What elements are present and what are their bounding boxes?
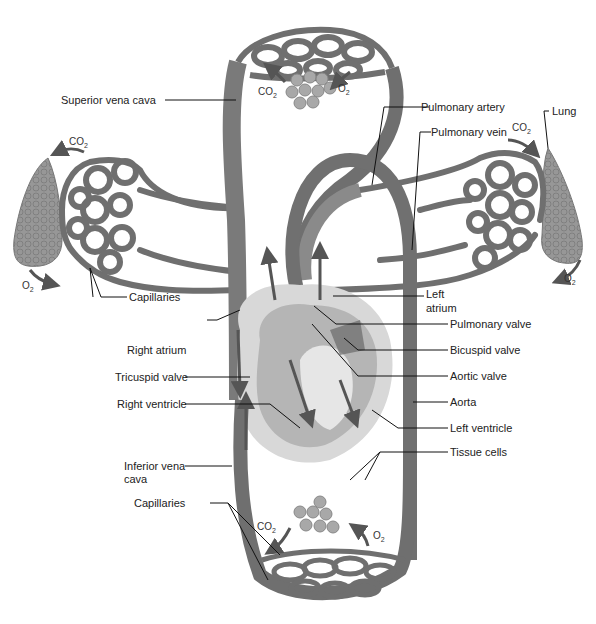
label-left-ventricle: Left ventricle	[450, 422, 512, 435]
label-pulmonary-valve: Pulmonary valve	[450, 318, 531, 331]
right-lung	[542, 148, 583, 263]
label-right-ventricle: Right ventricle	[117, 398, 187, 411]
pulmonary-artery-vessel	[304, 190, 360, 280]
co2-left-lung: CO2	[69, 136, 88, 149]
o2-left-lung: O2	[22, 280, 34, 293]
label-aortic-valve: Aortic valve	[450, 370, 507, 383]
label-pulmonary-artery: Pulmonary artery	[421, 101, 505, 114]
label-pulmonary-vein: Pulmonary vein	[431, 126, 507, 139]
label-left-atrium-2: atrium	[426, 302, 457, 315]
co2-right-lung: CO2	[512, 122, 531, 135]
label-aorta: Aorta	[450, 396, 476, 409]
label-inferior-vena-cava-1: Inferior vena	[124, 460, 185, 473]
o2-upper: O2	[338, 83, 350, 96]
lower-tissue-cells	[294, 496, 339, 533]
label-bicuspid-valve: Bicuspid valve	[450, 344, 520, 357]
label-tissue-cells: Tissue cells	[450, 446, 507, 459]
o2-right-lung: O2	[564, 273, 576, 286]
left-lung	[14, 158, 62, 266]
label-capillaries-upper: Capillaries	[129, 291, 180, 304]
co2-upper: CO2	[258, 86, 277, 99]
co2-lower: CO2	[257, 521, 276, 534]
label-tricuspid-valve: Tricuspid valve	[115, 371, 188, 384]
label-lung: Lung	[552, 105, 576, 118]
o2-lower: O2	[373, 530, 385, 543]
heart	[237, 284, 392, 462]
left-pulmonary-capillaries	[62, 160, 240, 291]
label-inferior-vena-cava-2: cava	[124, 473, 147, 486]
label-superior-vena-cava: Superior vena cava	[61, 94, 156, 107]
label-right-atrium: Right atrium	[127, 344, 186, 357]
label-capillaries-lower: Capillaries	[134, 497, 185, 510]
superior-vena-cava-vessel	[232, 62, 238, 400]
label-left-atrium-1: Left	[426, 288, 444, 301]
upper-systemic-capillaries	[238, 30, 392, 79]
